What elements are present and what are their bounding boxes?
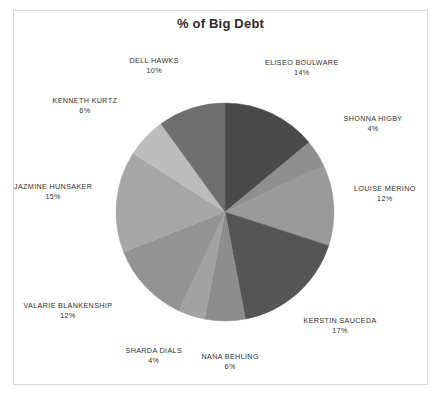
pie-slice-label-value: 6% bbox=[202, 362, 259, 372]
pie-slice-label-name: SHARDA DIALS bbox=[126, 346, 183, 356]
pie-slice-label: ELISEO BOULWARE14% bbox=[265, 58, 339, 79]
chart-title: % of Big Debt bbox=[0, 16, 441, 31]
pie-plot-area bbox=[115, 102, 335, 322]
pie-slice-label-value: 17% bbox=[304, 326, 377, 336]
pie-slice-label-value: 15% bbox=[14, 192, 92, 202]
pie-slice-label-name: NANA BEHLING bbox=[202, 352, 259, 362]
pie-slice-label-value: 6% bbox=[53, 106, 118, 116]
pie-slice-label-name: DELL HAWKS bbox=[130, 56, 179, 66]
pie-slice-label: LOUISE MERINO12% bbox=[354, 184, 416, 205]
pie-slice-label: SHONNA HIGBY4% bbox=[344, 114, 403, 135]
pie-slice-label-value: 12% bbox=[24, 311, 113, 321]
pie-chart-card: % of Big Debt ELISEO BOULWARE14%SHONNA H… bbox=[0, 0, 441, 397]
pie-slice-label: NANA BEHLING6% bbox=[202, 352, 259, 373]
pie-slice-label: JAZMINE HUNSAKER15% bbox=[14, 182, 92, 203]
pie-slice-label: KENNETH KURTZ6% bbox=[53, 96, 118, 117]
pie-slice-label-name: LOUISE MERINO bbox=[354, 184, 416, 194]
pie-slice-label-name: SHONNA HIGBY bbox=[344, 114, 403, 124]
pie-slice-label-name: KERSTIN SAUCEDA bbox=[304, 316, 377, 326]
pie-slice-label-value: 10% bbox=[130, 66, 179, 76]
pie-slice-group bbox=[116, 103, 334, 321]
pie-svg bbox=[115, 102, 335, 322]
pie-slice-label-name: ELISEO BOULWARE bbox=[265, 58, 339, 68]
pie-slice-label: KERSTIN SAUCEDA17% bbox=[304, 316, 377, 337]
pie-slice-label-value: 12% bbox=[354, 194, 416, 204]
pie-slice-label-name: KENNETH KURTZ bbox=[53, 96, 118, 106]
pie-slice-label: VALARIE BLANKENSHIP12% bbox=[24, 301, 113, 322]
pie-slice-label-value: 4% bbox=[344, 124, 403, 134]
pie-slice-label-value: 14% bbox=[265, 68, 339, 78]
pie-slice-label-value: 4% bbox=[126, 356, 183, 366]
pie-slice-label-name: VALARIE BLANKENSHIP bbox=[24, 301, 113, 311]
pie-slice-label: DELL HAWKS10% bbox=[130, 56, 179, 77]
pie-slice-label-name: JAZMINE HUNSAKER bbox=[14, 182, 92, 192]
pie-slice-label: SHARDA DIALS4% bbox=[126, 346, 183, 367]
